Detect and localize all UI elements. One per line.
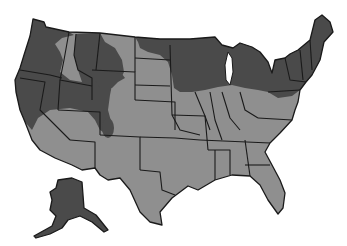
us-map — [0, 0, 347, 246]
alaska — [34, 178, 108, 238]
